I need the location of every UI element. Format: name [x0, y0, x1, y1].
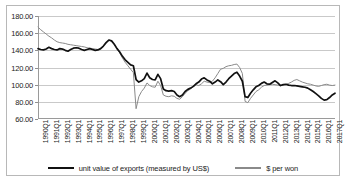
x-tick-label: 2016Q1	[325, 120, 332, 143]
x-axis: 1990Q11991Q11992Q11993Q11994Q11995Q11996…	[38, 120, 335, 160]
y-tick-label: 160.00	[11, 30, 33, 37]
x-tick-label: 2009Q1	[249, 120, 256, 143]
x-tick-label: 2008Q1	[238, 120, 245, 143]
legend-swatch-icon	[235, 167, 261, 168]
x-tick-label: 2005Q1	[205, 120, 212, 143]
x-tick-label: 2014Q1	[304, 120, 311, 143]
x-tick-label: 2001Q1	[162, 120, 169, 143]
x-tick-label: 2003Q1	[184, 120, 191, 143]
series-line-dollar-per-won	[38, 27, 335, 109]
x-tick-label: 1992Q1	[64, 120, 71, 143]
x-tick-label: 2010Q1	[260, 120, 267, 143]
y-tick-label: 100.00	[11, 81, 33, 88]
x-tick-label: 1997Q1	[118, 120, 125, 143]
x-tick-label: 1990Q1	[42, 120, 49, 143]
y-tick-label: 140.00	[11, 47, 33, 54]
y-tick-label: 80.00	[15, 98, 33, 105]
chart-legend: unit value of exports (measured by US$) …	[6, 160, 340, 176]
legend-item-label: $ per won	[266, 164, 298, 173]
x-tick-label: 2011Q1	[271, 120, 278, 143]
y-axis: 180.00160.00140.00120.00100.0080.0060.00	[0, 16, 36, 119]
x-tick-label: 2015Q1	[314, 120, 321, 143]
series-line-unit-value-of-exports	[38, 40, 335, 100]
x-tick-label: 2006Q1	[216, 120, 223, 143]
x-tick-label: 1994Q1	[86, 120, 93, 143]
x-tick-label: 2012Q1	[282, 120, 289, 143]
x-tick-label: 1996Q1	[107, 120, 114, 143]
legend-item-label: unit value of exports (measured by US$)	[79, 164, 209, 173]
legend-item-unit-value-of-exports: unit value of exports (measured by US$)	[48, 164, 209, 173]
x-tick-label: 1999Q1	[140, 120, 147, 143]
x-tick-label: 2007Q1	[227, 120, 234, 143]
x-tick-label: 1995Q1	[96, 120, 103, 143]
x-tick-label: 2013Q1	[293, 120, 300, 143]
y-tick-label: 180.00	[11, 13, 33, 20]
y-tick-label: 120.00	[11, 64, 33, 71]
series-layer	[38, 16, 335, 119]
x-tick-label: 2002Q1	[173, 120, 180, 143]
legend-swatch-icon	[48, 167, 74, 170]
plot-area	[38, 16, 335, 119]
y-tick-label: 60.00	[15, 116, 33, 123]
x-tick-label: 2017Q1	[336, 120, 343, 143]
x-tick-label: 1993Q1	[75, 120, 82, 143]
x-tick-label: 2000Q1	[151, 120, 158, 143]
legend-item-dollar-per-won: $ per won	[235, 164, 298, 173]
x-tick-label: 1998Q1	[129, 120, 136, 143]
x-tick-label: 1991Q1	[53, 120, 60, 143]
chart-figure: 180.00160.00140.00120.00100.0080.0060.00…	[0, 0, 347, 188]
x-tick-label: 2004Q1	[195, 120, 202, 143]
